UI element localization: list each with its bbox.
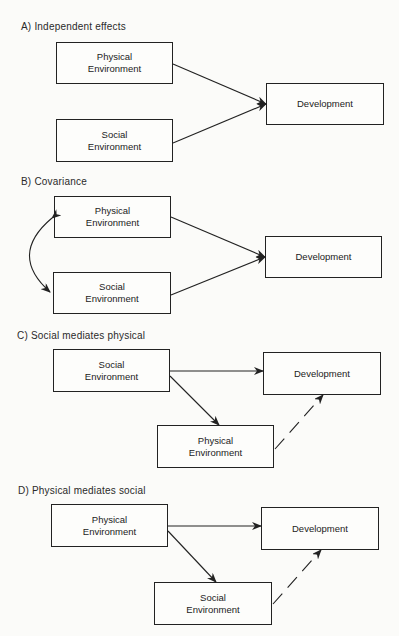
arrow-d-physical-to-social — [168, 531, 216, 582]
arrow-b-physical-to-development — [171, 217, 265, 257]
arrow-c-social-to-physical — [170, 376, 219, 425]
arrows-layer — [0, 0, 399, 636]
arrow-d-social-to-development-dashed — [273, 550, 321, 604]
arrow-a-physical-to-development — [173, 64, 266, 104]
arrow-b-social-to-development — [171, 257, 265, 295]
arrow-c-physical-to-development-dashed — [275, 395, 323, 449]
arrow-b-covariance — [29, 218, 52, 292]
arrow-a-social-to-development — [173, 104, 266, 143]
